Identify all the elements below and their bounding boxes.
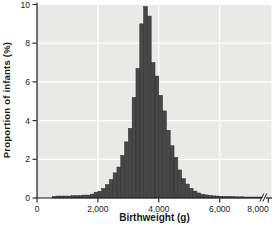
- histogram-bar: [109, 180, 113, 198]
- histogram-bar: [185, 184, 189, 198]
- histogram-bar: [147, 16, 151, 198]
- histogram-bar: [159, 95, 163, 198]
- histogram-bar: [102, 188, 106, 198]
- histogram-bar: [125, 142, 129, 198]
- histogram-bar: [189, 188, 193, 198]
- histogram-bar: [94, 192, 98, 198]
- histogram-bar: [170, 146, 174, 198]
- histogram-bar: [163, 111, 167, 198]
- y-tick-label: 0: [25, 193, 30, 203]
- birthweight-histogram-figure: 024681002,0004,0006,0008,000 Proportion …: [0, 0, 274, 239]
- y-tick-label: 2: [25, 154, 30, 164]
- histogram-bar: [151, 63, 155, 198]
- y-tick-label: 4: [25, 116, 30, 126]
- histogram-bar: [182, 179, 186, 198]
- histogram-bar: [166, 130, 170, 198]
- y-tick-label: 8: [25, 38, 30, 48]
- histogram-bar: [193, 191, 197, 198]
- histogram-bar: [178, 170, 182, 198]
- plot-area: 024681002,0004,0006,0008,000: [0, 0, 274, 239]
- histogram-bar: [128, 128, 132, 198]
- y-axis-title: Proportion of infants (%): [1, 35, 15, 165]
- histogram-bar: [136, 68, 140, 198]
- x-axis-title: Birthweight (g): [37, 212, 272, 223]
- histogram-bar: [117, 167, 121, 198]
- histogram-bar: [197, 193, 201, 198]
- histogram-bar: [113, 173, 117, 198]
- histogram-bar: [140, 24, 144, 198]
- histogram-bar: [132, 97, 136, 198]
- y-tick-label: 6: [25, 77, 30, 87]
- y-tick-label: 10: [21, 0, 31, 10]
- histogram-bar: [174, 157, 178, 198]
- histogram-bar: [121, 155, 125, 198]
- histogram-bar: [144, 6, 148, 198]
- histogram-bar: [155, 76, 159, 198]
- histogram-bar: [98, 191, 102, 198]
- histogram-bar: [106, 184, 110, 198]
